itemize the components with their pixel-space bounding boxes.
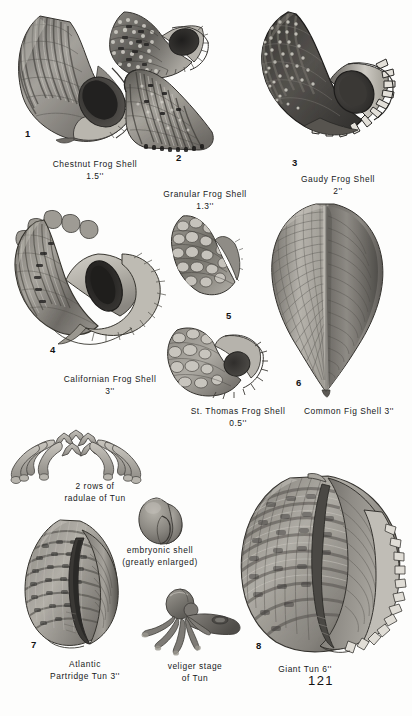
figure-marker-1: 1 — [25, 128, 31, 139]
page-number: 121 — [308, 673, 334, 688]
figure-marker-2: 2 — [176, 152, 182, 163]
caption-fig3-line1: Gaudy Frog Shell — [258, 173, 412, 185]
figure-st-thomas-frog-shell-a — [165, 208, 243, 303]
caption-fig5-line2: 0.5'' — [160, 417, 316, 429]
figure-common-fig-shell — [266, 200, 390, 398]
caption-fig3-line2: 2'' — [258, 185, 412, 197]
figure-giant-tun — [236, 472, 412, 658]
caption-veliger-line2: of Tun — [135, 672, 255, 684]
diagram-embryonic-shell — [136, 496, 190, 548]
diagram-radulae — [6, 428, 156, 484]
figure-st-thomas-frog-shell-b — [163, 320, 268, 402]
figure-marker-7: 7 — [31, 639, 37, 650]
figure-californian-frog-shell — [6, 206, 181, 358]
figure-marker-8: 8 — [256, 640, 262, 651]
page-bottom-margin — [0, 716, 412, 722]
caption-fig8-line1: Giant Tun 6'' — [252, 663, 358, 675]
plate-page: 1 Chestnut Frog Shell 1.5'' — [0, 0, 412, 722]
caption-radulae-line1: 2 rows of — [28, 480, 162, 492]
figure-granular-frog-shell-b — [118, 64, 228, 159]
caption-fig1-line1: Chestnut Frog Shell — [0, 158, 190, 170]
figure-atlantic-partridge-tun — [20, 518, 140, 650]
figure-marker-4: 4 — [50, 344, 56, 355]
caption-fig6-line1: Common Fig Shell 3'' — [286, 405, 412, 417]
caption-fig1-line2: 1.5'' — [0, 170, 190, 182]
caption-veliger-line1: veliger stage — [135, 660, 255, 672]
figure-marker-3: 3 — [292, 157, 298, 168]
figure-marker-6: 6 — [296, 377, 302, 388]
figure-gaudy-frog-shell — [250, 8, 408, 160]
diagram-veliger-larva — [140, 588, 250, 656]
